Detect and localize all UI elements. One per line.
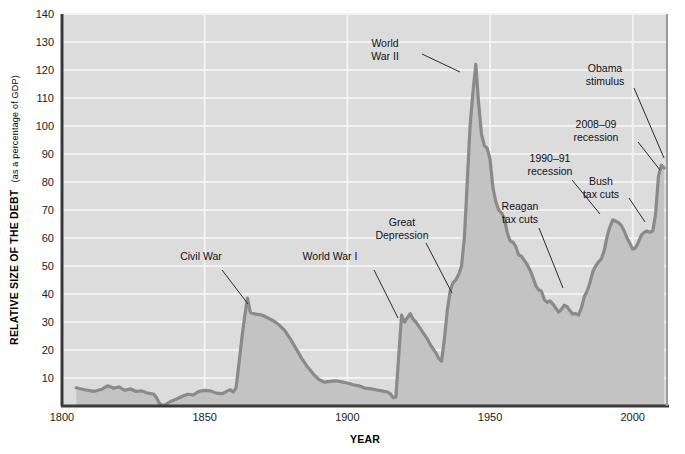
- y-tick-70: 70: [42, 204, 54, 216]
- x-tick-2000: 2000: [621, 411, 645, 423]
- y-axis-title-sub: (as a percentage of GDP): [10, 75, 20, 182]
- y-tick-90: 90: [42, 148, 54, 160]
- x-tick-1800: 1800: [50, 411, 74, 423]
- debt-gdp-chart: 102030405060708090100110120130140 180018…: [0, 0, 685, 454]
- y-tick-40: 40: [42, 288, 54, 300]
- annotation-label-reagan-tax-cuts: Reagantax cuts: [502, 200, 539, 225]
- annotation-label-civil-war: Civil War: [180, 250, 222, 262]
- y-tick-100: 100: [36, 120, 54, 132]
- x-tick-1950: 1950: [478, 411, 502, 423]
- y-tick-110: 110: [36, 92, 54, 104]
- y-axis-title-main: RELATIVE SIZE OF THE DEBT: [8, 189, 20, 345]
- y-tick-80: 80: [42, 176, 54, 188]
- y-tick-140: 140: [36, 8, 54, 20]
- y-tick-120: 120: [36, 64, 54, 76]
- y-axis-title: RELATIVE SIZE OF THE DEBT (as a percenta…: [8, 75, 20, 345]
- y-tick-20: 20: [42, 344, 54, 356]
- y-tick-60: 60: [42, 232, 54, 244]
- annotation-label-world-war-i: World War I: [303, 250, 358, 262]
- y-tick-130: 130: [36, 36, 54, 48]
- y-tick-50: 50: [42, 260, 54, 272]
- chart-canvas: 102030405060708090100110120130140 180018…: [0, 0, 685, 454]
- x-tick-1900: 1900: [335, 411, 359, 423]
- y-tick-10: 10: [42, 372, 54, 384]
- annotation-label-recession-2008-09: 2008–09recession: [574, 118, 619, 143]
- annotation-label-recession-1990-91: 1990–91recession: [528, 152, 573, 177]
- y-tick-30: 30: [42, 316, 54, 328]
- svg-text:RELATIVE SIZE OF THE DEBT: RELATIVE SIZE OF THE DEBT (as a percenta…: [8, 75, 20, 345]
- x-tick-1850: 1850: [192, 411, 216, 423]
- annotation-label-world-war-ii: WorldWar II: [371, 37, 399, 62]
- annotation-label-obama-stimulus: Obamastimulus: [586, 62, 625, 87]
- x-axis-title: YEAR: [350, 433, 380, 445]
